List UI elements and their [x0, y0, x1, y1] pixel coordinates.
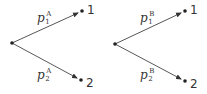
node-label-b-1: 1	[190, 3, 198, 17]
end-node-a-1	[80, 9, 84, 13]
prob-label-a-1: p1A	[37, 10, 52, 26]
edge-b-2	[115, 44, 181, 79]
prob-label-a-2: p2A	[37, 67, 52, 83]
end-node-b-2	[183, 79, 187, 83]
node-label-a-2: 2	[86, 76, 94, 90]
tree-a: 1 2 p1A p2A	[10, 3, 94, 90]
node-label-b-2: 2	[190, 77, 198, 91]
prob-label-b-2: p2B	[140, 67, 154, 83]
probability-trees: 1 2 p1A p2A 1 2 p1B p2B	[0, 0, 207, 94]
end-node-b-1	[183, 9, 187, 13]
end-node-a-2	[79, 78, 83, 82]
root-node-b	[113, 42, 117, 46]
root-node-a	[10, 41, 14, 45]
node-label-a-1: 1	[87, 3, 95, 17]
tree-b: 1 2 p1B p2B	[113, 3, 197, 91]
prob-label-b-1: p1B	[140, 10, 154, 26]
